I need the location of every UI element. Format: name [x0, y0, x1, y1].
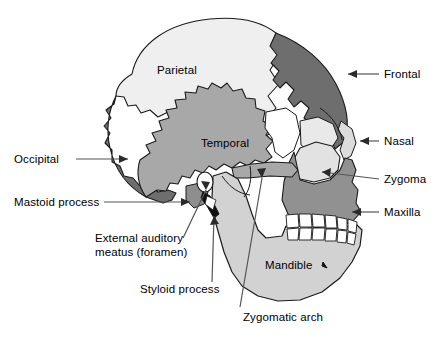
tooth-lower: [347, 232, 356, 245]
label-external-auditory-meatus: External auditorymeatus (foramen): [95, 232, 205, 259]
tooth-lower: [287, 228, 299, 240]
tooth-lower: [325, 229, 337, 241]
label-styloid-process: Styloid process: [140, 283, 219, 296]
label-occipital: Occipital: [14, 153, 59, 166]
tooth-lower: [299, 228, 312, 240]
tooth-upper: [348, 219, 357, 233]
tooth-upper: [312, 214, 325, 227]
tooth-upper: [286, 214, 299, 228]
arrowhead-nasal: [360, 137, 369, 145]
skull-diagram-figure: Frontal Nasal Zygoma Maxilla Occipital M…: [0, 0, 446, 337]
label-parietal: Parietal: [157, 64, 197, 77]
tooth-upper: [325, 215, 337, 228]
skull-illustration: [0, 0, 446, 337]
label-temporal: Temporal: [201, 137, 249, 150]
label-mandible: Mandible: [265, 259, 312, 272]
tooth-upper: [299, 214, 312, 227]
arrowhead-occipital: [119, 155, 128, 163]
label-mastoid-process: Mastoid process: [14, 196, 99, 209]
zygomatic-bone-region: [294, 142, 340, 182]
label-eam-line1: External auditory: [95, 232, 183, 244]
label-zygoma: Zygoma: [384, 173, 426, 186]
teeth-group: [286, 214, 357, 245]
tooth-lower: [337, 230, 347, 243]
leader-styloid: [212, 216, 214, 282]
label-nasal: Nasal: [384, 135, 414, 148]
sphenoid-bone-region: [265, 108, 300, 158]
label-zygomatic-arch: Zygomatic arch: [243, 311, 323, 324]
label-frontal: Frontal: [384, 68, 421, 81]
label-eam-line2: meatus (foramen): [95, 246, 187, 258]
label-maxilla: Maxilla: [384, 206, 421, 219]
tooth-upper: [337, 217, 347, 230]
arrowhead-frontal: [348, 70, 357, 78]
tooth-lower: [312, 228, 325, 240]
